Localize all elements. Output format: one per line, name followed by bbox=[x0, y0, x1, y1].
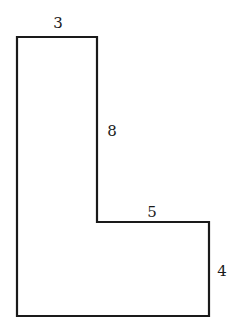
label-inner-horizontal: 5 bbox=[147, 203, 157, 221]
l-shape-outline bbox=[17, 37, 209, 316]
label-right-height: 4 bbox=[217, 262, 227, 280]
l-shape-diagram: 3 8 5 4 bbox=[0, 0, 242, 335]
label-inner-vertical: 8 bbox=[107, 122, 117, 140]
label-top-width: 3 bbox=[53, 14, 63, 32]
